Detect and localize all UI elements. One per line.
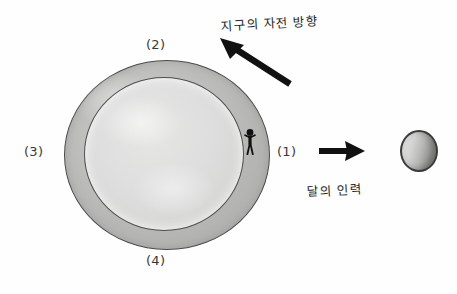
earth <box>64 60 268 248</box>
earth-rotation-direction-label: 지구의 자전 방향 <box>221 10 319 35</box>
moon-gravity-label: 달의 인력 <box>307 179 363 201</box>
moon-gravity-arrow-icon <box>317 137 369 165</box>
earth-rotation-arrow-icon <box>208 34 294 88</box>
position-label-1: (1) <box>277 144 296 159</box>
position-label-3: (3) <box>24 144 43 159</box>
earth-landmass <box>84 77 244 231</box>
tide-diagram-canvas: 지구의 자전 방향 달의 인력 (1) (2) (3) (4) <box>0 0 457 294</box>
observer-person-icon <box>244 129 256 155</box>
moon <box>400 130 438 172</box>
position-label-4: (4) <box>146 253 165 268</box>
position-label-2: (2) <box>146 37 165 52</box>
